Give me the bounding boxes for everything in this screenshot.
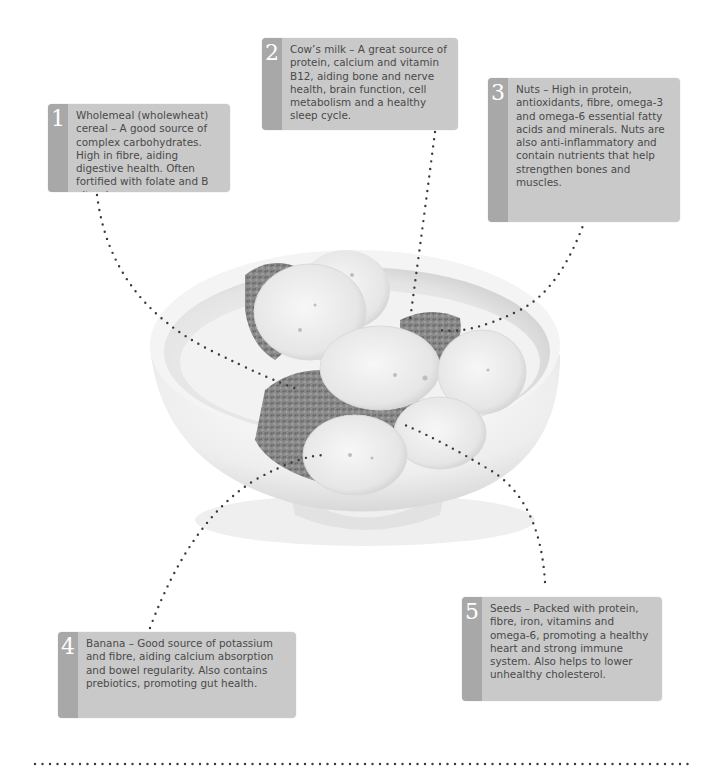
callout-number: 5 [462,597,482,701]
callout-text: Banana – Good source of potassium and fi… [78,632,296,718]
callout-seeds: 5 Seeds – Packed with protein, fibre, ir… [462,597,662,701]
callout-number: 4 [58,632,78,718]
callout-text: Cow’s milk – A great source of protein, … [282,38,458,130]
callout-text: Wholemeal (wholewheat) cereal – A good s… [68,104,230,192]
callout-number: 1 [48,104,68,192]
callout-number: 2 [262,38,282,130]
callout-nuts: 3 Nuts – High in protein, antioxidants, … [488,78,680,222]
callout-cereal: 1 Wholemeal (wholewheat) cereal – A good… [48,104,230,192]
callout-text: Nuts – High in protein, antioxidants, fi… [508,78,680,222]
callout-number: 3 [488,78,508,222]
nutrition-diagram: 1 Wholemeal (wholewheat) cereal – A good… [0,0,718,769]
callout-banana: 4 Banana – Good source of potassium and … [58,632,296,718]
callout-text: Seeds – Packed with protein, fibre, iron… [482,597,662,701]
callout-milk: 2 Cow’s milk – A great source of protein… [262,38,458,130]
